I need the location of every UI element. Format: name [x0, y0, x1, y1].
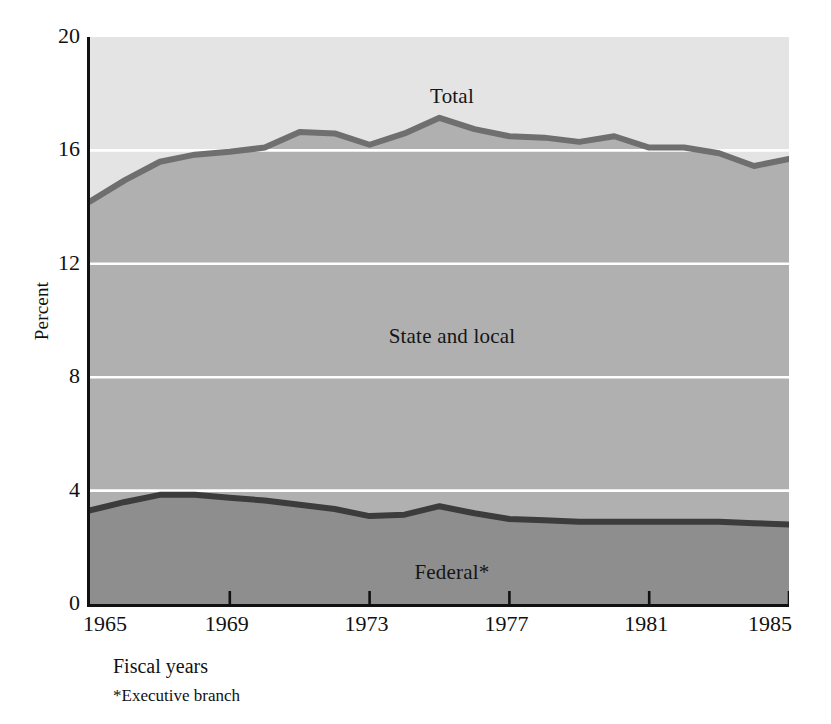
chart-footnote: *Executive branch — [113, 686, 240, 706]
y-tick-label: 12 — [36, 252, 80, 274]
x-tick-label-1985: 1985 — [748, 612, 792, 636]
x-tick-label-1965: 1965 — [83, 612, 127, 636]
chart-figure: Percent 20 16 12 8 4 0 Total State and l… — [0, 0, 831, 724]
x-axis-title: Fiscal years — [113, 655, 208, 678]
y-axis-tick-labels: 20 16 12 8 4 0 — [28, 0, 80, 724]
series-label-state-and-local: State and local — [389, 324, 516, 349]
y-tick-label: 16 — [36, 138, 80, 160]
x-tick-label-1977: 1977 — [484, 612, 528, 636]
series-label-federal: Federal* — [414, 560, 489, 585]
stacked-area-svg — [90, 37, 789, 604]
y-tick-label: 8 — [36, 365, 80, 387]
plot-area: Total State and local Federal* — [87, 37, 789, 607]
x-tick-label-1969: 1969 — [205, 612, 249, 636]
y-tick-label: 4 — [36, 479, 80, 501]
y-tick-label: 20 — [36, 25, 80, 47]
series-label-total: Total — [430, 84, 474, 109]
x-tick-label-1981: 1981 — [624, 612, 668, 636]
y-tick-label: 0 — [36, 592, 80, 614]
x-tick-label-1973: 1973 — [345, 612, 389, 636]
